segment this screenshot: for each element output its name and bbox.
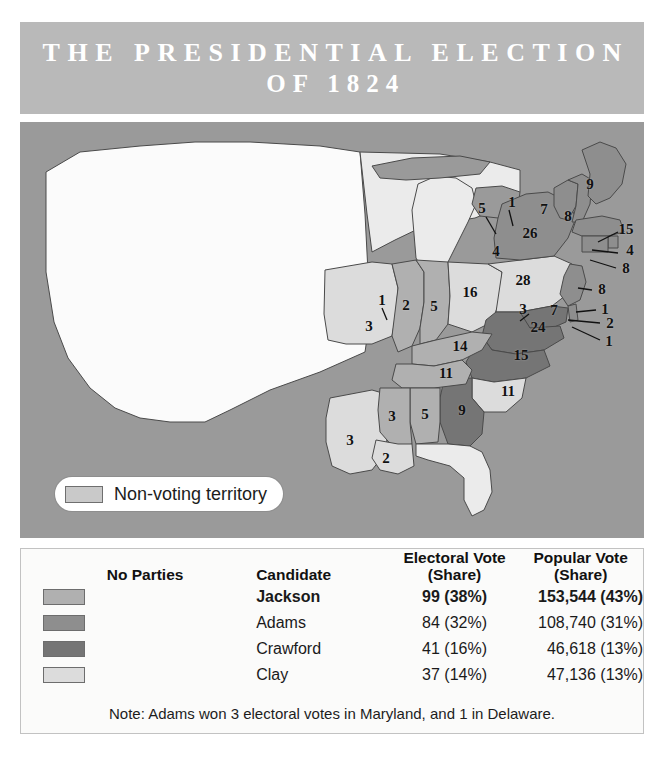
row-swatch-cell [21, 662, 107, 688]
vote-label-vermont: 7 [540, 202, 548, 217]
legend-swatch-crawford [43, 641, 85, 657]
row-popular-clay: 47,136 (13%) [518, 662, 643, 688]
results-table-head: No Parties Candidate Electoral Vote (Sha… [21, 549, 643, 584]
row-swatch-cell [21, 610, 107, 636]
row-popular-crawford: 46,618 (13%) [518, 636, 643, 662]
vote-label-alabama: 5 [421, 407, 429, 422]
vote-label-north-carolina: 15 [514, 348, 529, 363]
us-map-svg: .st{stroke:#4a4a4a;stroke-width:1;stroke… [20, 122, 644, 538]
header-electoral-line2: (Share) [391, 566, 519, 583]
vote-label-virginia: 24 [531, 320, 546, 335]
results-table-body: Jackson 99 (38%) 153,544 (43%) Adams 84 … [21, 584, 643, 727]
vote-label-new-york: 26 [523, 226, 538, 241]
header-swatch-spacer [21, 549, 107, 584]
vote-label-mississippi: 3 [388, 409, 396, 424]
page-title-subline: OF 1824 [259, 69, 406, 100]
vote-label-missouri: 3 [365, 319, 373, 334]
table-row: Clay 37 (14%) 47,136 (13%) [21, 662, 643, 688]
header-popular-line2: (Share) [518, 566, 643, 583]
state-missouri [324, 262, 398, 344]
row-swatch-cell [21, 584, 107, 610]
row-candidate-clay: Clay [256, 662, 391, 688]
table-note-row: Note: Adams won 3 electoral votes in Mar… [21, 688, 643, 727]
vote-label-louisiana: 2 [382, 451, 390, 466]
vote-label-rhode-island: 4 [626, 243, 634, 258]
vote-label-massachusetts: 15 [619, 222, 634, 237]
row-candidate-adams: Adams [256, 610, 391, 636]
vote-label-michigan-terr: 1 [508, 195, 516, 210]
header-party: No Parties [107, 549, 256, 584]
row-party-cell [107, 662, 256, 688]
vote-label-pennsylvania: 28 [516, 273, 531, 288]
row-electoral-crawford: 41 (16%) [391, 636, 519, 662]
table-header-row: No Parties Candidate Electoral Vote (Sha… [21, 549, 643, 584]
vote-label-arkansas-terr: 3 [346, 433, 354, 448]
vote-label-ohio: 16 [463, 285, 478, 300]
table-row: Jackson 99 (38%) 153,544 (43%) [21, 584, 643, 610]
vote-label-indiana: 5 [430, 299, 438, 314]
row-popular-adams: 108,740 (31%) [518, 610, 643, 636]
results-table: No Parties Candidate Electoral Vote (Sha… [21, 549, 643, 727]
vote-label-virginia-third: 7 [550, 303, 558, 318]
map-panel: .st{stroke:#4a4a4a;stroke-width:1;stroke… [20, 122, 644, 538]
vote-label-missouri-second: 1 [378, 293, 386, 308]
vote-label-new-hampshire: 8 [564, 209, 572, 224]
row-electoral-adams: 84 (32%) [391, 610, 519, 636]
nonvoting-swatch-icon [65, 486, 103, 503]
vote-label-territory-five: 5 [478, 201, 486, 216]
vote-label-maryland: 2 [606, 316, 614, 331]
row-swatch-cell [21, 636, 107, 662]
election-map-figure: THE PRESIDENTIAL ELECTION OF 1824 .st{st… [0, 0, 664, 758]
header-electoral-line1: Electoral Vote [391, 549, 519, 566]
row-electoral-clay: 37 (14%) [391, 662, 519, 688]
vote-label-maryland-second: 1 [605, 334, 613, 349]
row-popular-jackson: 153,544 (43%) [518, 584, 643, 610]
vote-label-tennessee: 11 [439, 366, 453, 381]
row-candidate-crawford: Crawford [256, 636, 391, 662]
vote-label-territory-four: 4 [492, 244, 500, 259]
header-candidate: Candidate [256, 549, 391, 584]
row-party-cell [107, 584, 256, 610]
row-party-cell [107, 610, 256, 636]
nonvoting-territory-label: Non-voting territory [114, 484, 267, 505]
vote-label-south-carolina: 11 [501, 384, 515, 399]
legend-swatch-clay [43, 667, 85, 683]
legend-swatch-adams [43, 615, 85, 631]
state-delaware [568, 304, 578, 322]
vote-label-new-jersey: 8 [598, 282, 606, 297]
figure-title-band: THE PRESIDENTIAL ELECTION OF 1824 [20, 22, 644, 114]
table-row: Adams 84 (32%) 108,740 (31%) [21, 610, 643, 636]
header-popular-vote: Popular Vote (Share) [518, 549, 643, 584]
header-popular-line1: Popular Vote [518, 549, 643, 566]
results-note: Note: Adams won 3 electoral votes in Mar… [21, 688, 643, 727]
row-party-cell [107, 636, 256, 662]
vote-label-virginia-second: 3 [519, 302, 527, 317]
vote-label-connecticut: 8 [622, 261, 630, 276]
row-candidate-jackson: Jackson [256, 584, 391, 610]
row-electoral-jackson: 99 (38%) [391, 584, 519, 610]
vote-label-illinois: 2 [402, 298, 410, 313]
state-rhode-island [608, 236, 618, 248]
vote-label-kentucky: 14 [453, 339, 468, 354]
vote-label-georgia: 9 [458, 403, 466, 418]
results-panel: No Parties Candidate Electoral Vote (Sha… [20, 548, 644, 734]
page-title: THE PRESIDENTIAL ELECTION [35, 37, 629, 69]
header-electoral-vote: Electoral Vote (Share) [391, 549, 519, 584]
legend-swatch-jackson [43, 589, 85, 605]
nonvoting-territory-legend: Non-voting territory [55, 477, 283, 511]
vote-label-maine: 9 [586, 177, 594, 192]
table-row: Crawford 41 (16%) 46,618 (13%) [21, 636, 643, 662]
